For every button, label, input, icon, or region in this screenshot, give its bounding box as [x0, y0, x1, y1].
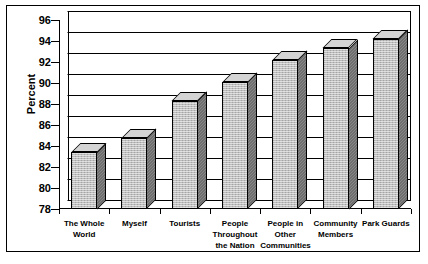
bar-side-face	[198, 92, 207, 209]
gridline	[68, 32, 411, 33]
x-axis-tick-label-line: Throughout	[210, 229, 260, 240]
x-axis-tick-label-line: Myself	[109, 218, 159, 229]
y-axis-tick-label: 92	[25, 57, 51, 67]
x-axis-tick-mark	[109, 209, 110, 214]
bar-side-face	[97, 143, 106, 209]
bar-front-face	[121, 138, 147, 209]
y-axis-tick-mark	[51, 188, 59, 189]
bar	[222, 82, 248, 209]
y-axis-tick-labels: 96949290888684828078	[21, 20, 51, 209]
x-axis-tick-mark	[310, 209, 311, 214]
y-axis-tick-label: 94	[25, 36, 51, 46]
bar-side-face	[349, 39, 358, 209]
bar-front-face	[71, 152, 97, 209]
x-axis-tick-label-line: People	[210, 218, 260, 229]
y-axis-tick-mark	[51, 167, 59, 168]
y-axis-tick-label: 82	[25, 162, 51, 172]
bar	[71, 152, 97, 209]
x-axis-tick-label-line: People in	[260, 218, 310, 229]
x-axis-tick-mark	[160, 209, 161, 214]
bar	[373, 39, 399, 209]
y-axis-tick-mark	[51, 20, 59, 21]
x-axis-tick-label: The WholeWorld	[59, 218, 109, 240]
x-axis-tick-mark	[361, 209, 362, 214]
y-axis-tick-label: 86	[25, 120, 51, 130]
x-axis-tick-label: PeopleThroughoutthe Nation	[210, 218, 260, 251]
x-axis-tick-label: Myself	[109, 218, 159, 229]
bar-side-face	[298, 51, 307, 209]
bar-side-face	[248, 73, 257, 209]
y-axis-tick-mark	[51, 209, 59, 210]
y-axis-tick-label: 84	[25, 141, 51, 151]
bar	[272, 60, 298, 209]
bar	[121, 138, 147, 209]
bar-front-face	[172, 101, 198, 209]
x-axis-tick-label: Tourists	[160, 218, 210, 229]
bar	[172, 101, 198, 209]
x-axis-tick-mark	[210, 209, 211, 214]
bar-side-face	[147, 129, 156, 209]
y-axis-tick-label: 80	[25, 183, 51, 193]
plot-area	[59, 20, 411, 209]
x-axis-tick-label: Park Guards	[361, 218, 411, 229]
y-axis-tick-mark	[51, 83, 59, 84]
x-axis-tick-label-line: Communities	[260, 240, 310, 251]
y-axis-tick-label: 78	[25, 204, 51, 214]
x-axis-tick-mark	[260, 209, 261, 214]
y-axis-tick-label: 88	[25, 99, 51, 109]
x-axis-tick-mark	[411, 209, 412, 214]
bar-front-face	[222, 82, 248, 209]
gridline	[68, 11, 411, 12]
chart-frame: Percent 96949290888684828078 The WholeWo…	[6, 5, 420, 252]
y-axis-tick-mark	[51, 146, 59, 147]
x-axis-tick-label-line: the Nation	[210, 240, 260, 251]
bar	[323, 48, 349, 209]
bar-front-face	[272, 60, 298, 209]
x-axis-tick-label-line: Tourists	[160, 218, 210, 229]
x-axis-tick-label-line: The Whole	[59, 218, 109, 229]
x-axis-tick-label: CommunityMembers	[310, 218, 360, 240]
bar-front-face	[373, 39, 399, 209]
x-axis-tick-label-line: Other	[260, 229, 310, 240]
x-axis-tick-label-line: Members	[310, 229, 360, 240]
x-axis-tick-labels: The WholeWorldMyselfTouristsPeopleThroug…	[59, 218, 411, 264]
bar-front-face	[323, 48, 349, 209]
y-axis-tick-label: 96	[25, 15, 51, 25]
y-axis-tick-mark	[51, 104, 59, 105]
x-axis-tick-label-line: Community	[310, 218, 360, 229]
x-axis-tick-label-line: Park Guards	[361, 218, 411, 229]
bar-side-face	[399, 30, 408, 209]
x-axis-tick-label-line: World	[59, 229, 109, 240]
x-axis-tick-mark	[59, 209, 60, 214]
y-axis-tick-mark	[51, 41, 59, 42]
y-axis-tick-label: 90	[25, 78, 51, 88]
y-axis-tick-mark	[51, 62, 59, 63]
gridline	[68, 53, 411, 54]
x-axis-tick-label: People inOtherCommunities	[260, 218, 310, 251]
y-axis-tick-mark	[51, 125, 59, 126]
